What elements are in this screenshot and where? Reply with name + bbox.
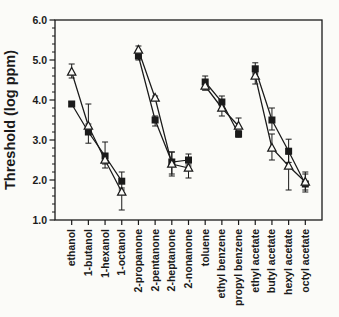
marker-open-triangle (118, 187, 126, 195)
x-category-label: hexyl acetate (282, 229, 294, 295)
plot-border (55, 20, 322, 220)
x-category-label: ethyl acetate (249, 229, 261, 293)
x-category-label: octyl acetate (299, 229, 311, 293)
marker-filled-square (68, 101, 75, 108)
y-tick-label: 1.0 (32, 214, 47, 226)
y-tick-label: 6.0 (32, 14, 47, 26)
x-category-label: toluene (199, 229, 211, 266)
x-category-label: 2-heptanone (165, 229, 177, 292)
x-category-label: butyl acetate (265, 229, 277, 293)
marker-open-triangle (151, 93, 159, 101)
y-tick-label: 2.0 (32, 174, 47, 186)
marker-filled-square (235, 131, 242, 138)
x-category-label: 1-hexanol (99, 229, 111, 278)
marker-open-triangle (268, 143, 276, 151)
threshold-line-chart: 1.02.03.04.05.06.0ethanol1-butanol1-hexa… (0, 0, 339, 317)
marker-open-triangle (84, 121, 92, 129)
x-category-label: 1-octanol (115, 229, 127, 276)
marker-filled-square (118, 178, 125, 185)
marker-open-triangle (67, 67, 75, 75)
series-line-open-triangle (72, 72, 122, 192)
y-tick-label: 5.0 (32, 54, 47, 66)
y-tick-label: 3.0 (32, 134, 47, 146)
x-category-label: 1-butanol (82, 229, 94, 276)
x-category-label: ethanol (65, 229, 77, 266)
x-category-label: propyl benzene (232, 229, 244, 306)
series-line-filled-square (255, 69, 305, 184)
y-axis-title: Threshold (log ppm) (2, 50, 18, 190)
scanned-figure: 1.02.03.04.05.06.0ethanol1-butanol1-hexa… (0, 0, 339, 317)
x-category-label: 2-pentanone (149, 229, 161, 292)
marker-filled-square (268, 117, 275, 124)
x-category-label: ethyl benzene (215, 229, 227, 299)
marker-filled-square (285, 148, 292, 155)
marker-open-triangle (134, 45, 142, 53)
series-line-open-triangle (138, 50, 188, 168)
x-category-label: 2-propanone (132, 229, 144, 293)
y-tick-label: 4.0 (32, 94, 47, 106)
x-category-label: 2-nonanone (182, 229, 194, 289)
marker-filled-square (152, 117, 159, 124)
